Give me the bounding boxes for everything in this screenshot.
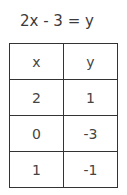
xy-value-table: x y 2 1 0 -3 1 -1: [9, 43, 118, 188]
table-header-row: x y: [10, 44, 118, 80]
cell-y: 1: [64, 80, 118, 116]
table-row: 1 -1: [10, 152, 118, 188]
cell-x: 0: [10, 116, 64, 152]
header-y: y: [64, 44, 118, 80]
cell-x: 2: [10, 80, 64, 116]
table-row: 0 -3: [10, 116, 118, 152]
equation-label: 2x - 3 = y: [20, 12, 94, 30]
cell-y: -1: [64, 152, 118, 188]
cell-x: 1: [10, 152, 64, 188]
header-x: x: [10, 44, 64, 80]
cell-y: -3: [64, 116, 118, 152]
table-row: 2 1: [10, 80, 118, 116]
